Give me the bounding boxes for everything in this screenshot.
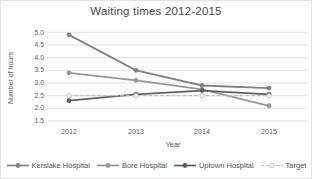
data-point-marker: [134, 78, 139, 83]
data-point-marker: [200, 94, 204, 98]
data-point-marker: [134, 68, 139, 73]
data-point-marker: [267, 103, 272, 108]
x-tick-label: 2014: [194, 127, 210, 136]
x-tick-label: 2013: [128, 127, 144, 136]
legend: Kerslake HospitalBore HospitalUptown Hos…: [1, 157, 311, 173]
chart-title: Waiting times 2012-2015: [1, 5, 311, 17]
y-tick-label: 3.0: [35, 79, 45, 86]
data-point-marker: [67, 94, 71, 98]
y-tick-label: 4.5: [35, 41, 45, 48]
waiting-times-chart: Waiting times 2012-2015 5.04.54.03.53.02…: [0, 0, 312, 179]
y-tick-label: 3.5: [35, 66, 45, 73]
legend-label: Bore Hospital: [122, 161, 167, 170]
y-axis-label: Number of hours: [7, 28, 17, 128]
data-point-marker: [67, 70, 72, 75]
x-axis-label: Year: [41, 140, 305, 149]
data-point-marker: [267, 94, 271, 98]
legend-swatch-icon: [6, 161, 30, 170]
legend-swatch-icon: [96, 161, 120, 170]
legend-swatch-icon: [173, 161, 197, 170]
y-tick-label: 4.0: [35, 54, 45, 61]
legend-label: Target: [286, 161, 307, 170]
legend-item: Bore Hospital: [96, 161, 167, 170]
legend-item: Uptown Hospital: [173, 161, 254, 170]
data-point-marker: [67, 98, 72, 103]
legend-label: Uptown Hospital: [199, 161, 254, 170]
data-point-marker: [267, 86, 272, 91]
legend-label: Kerslake Hospital: [32, 161, 90, 170]
data-point-marker: [134, 94, 138, 98]
legend-swatch-icon: [260, 161, 284, 170]
y-tick-label: 5.0: [35, 29, 45, 36]
legend-item: Kerslake Hospital: [6, 161, 90, 170]
series-line: [69, 35, 269, 88]
x-tick-label: 2012: [61, 127, 77, 136]
data-point-marker: [67, 32, 72, 37]
y-tick-label: 1.5: [35, 117, 45, 124]
data-point-marker: [200, 88, 205, 93]
y-tick-label: 2.5: [35, 92, 45, 99]
y-tick-label: 2.0: [35, 104, 45, 111]
x-tick-label: 2015: [261, 127, 277, 136]
plot-area: 5.04.54.03.53.02.52.01.52012201320142015: [1, 21, 312, 153]
legend-item: Target: [260, 161, 307, 170]
